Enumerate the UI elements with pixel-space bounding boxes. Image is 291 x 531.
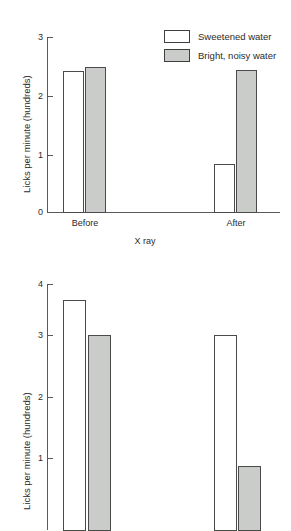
top-chart-y-axis-title: Licks per minute (hundreds) (22, 75, 32, 193)
legend-label-bright-noisy-water: Bright, noisy water (198, 50, 276, 61)
top-chart-tick-1 (48, 155, 53, 156)
legend-swatch-gray-icon (164, 49, 190, 62)
top-chart-tick-2 (48, 96, 53, 97)
bottom-chart-bar-right-bright (238, 466, 261, 531)
top-chart-y-axis (47, 37, 48, 213)
bottom-chart-tick-4 (48, 284, 53, 285)
legend-item-bright-noisy-water: Bright, noisy water (164, 49, 288, 63)
bottom-chart-tick-1 (48, 458, 53, 459)
legend-swatch-white-icon (164, 30, 190, 43)
top-chart-tick-3 (48, 37, 53, 38)
bottom-chart-y-axis (47, 284, 48, 530)
bottom-chart-bar-left-sweetened (63, 300, 86, 531)
top-chart-tick-label-3: 3 (27, 33, 43, 42)
bottom-chart-tick-label-3: 3 (27, 331, 43, 340)
bottom-chart-panel: 4 3 2 1 Licks per minute (hundreds) (0, 255, 291, 530)
top-chart-tick-label-0: 0 (27, 208, 43, 217)
bottom-chart-bar-left-bright (88, 335, 111, 531)
legend-label-sweetened-water: Sweetened water (198, 31, 271, 42)
top-chart-legend: Sweetened water Bright, noisy water (164, 30, 288, 68)
top-chart-category-label-after: After (206, 218, 266, 228)
bottom-chart-bar-right-sweetened (214, 335, 237, 531)
top-chart-bar-before-bright (85, 67, 106, 213)
legend-item-sweetened-water: Sweetened water (164, 30, 288, 44)
bottom-chart-tick-3 (48, 335, 53, 336)
top-chart-bar-after-bright (236, 70, 257, 213)
bottom-chart-tick-label-4: 4 (27, 280, 43, 289)
top-chart-bar-after-sweetened (214, 164, 235, 213)
top-chart-bar-before-sweetened (63, 71, 84, 213)
bottom-chart-y-axis-title: Licks per minute (hundreds) (22, 392, 32, 510)
bottom-chart-tick-2 (48, 397, 53, 398)
top-chart-x-axis-title: X ray (115, 236, 175, 246)
top-chart-category-label-before: Before (55, 218, 115, 228)
top-chart-panel: 3 2 1 0 Licks per minute (hundreds) Befo… (0, 0, 291, 255)
